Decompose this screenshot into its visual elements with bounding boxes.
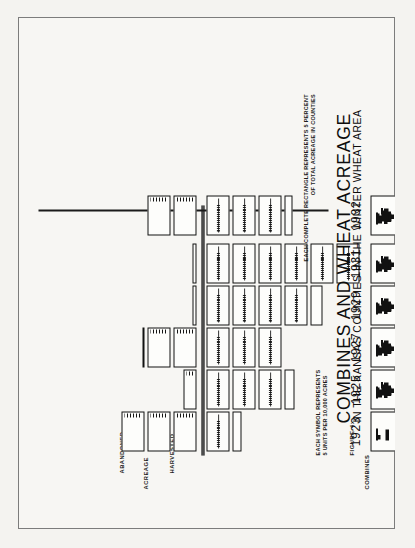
abandoned-rectangle xyxy=(147,195,170,235)
harvested-rectangle xyxy=(232,411,241,451)
harvested-rectangle xyxy=(258,243,281,283)
axis-label-combines: COMBINES xyxy=(363,454,369,489)
legend-combines: EACH SYMBOL REPRESENTS 5 UNITS PER 10,00… xyxy=(314,369,329,455)
harvested-rectangle xyxy=(206,285,229,325)
harvested-rectangle xyxy=(232,327,255,367)
figure-subtitle: IN THE KANSAS COUNTIES IN THE WINTER WHE… xyxy=(351,109,362,422)
abandoned-rectangle xyxy=(173,327,196,367)
abandoned-rectangle xyxy=(147,411,170,451)
harvested-rectangle xyxy=(258,285,281,325)
combines-bar-1929 xyxy=(370,285,395,325)
harvested-rectangle xyxy=(232,285,255,325)
harvested-rectangle xyxy=(232,243,255,283)
figure-canvas: ACREAGE HARVESTED ABANDONED COMBINES xyxy=(18,17,395,529)
combine-symbol-icon xyxy=(374,336,395,358)
harvested-rectangle xyxy=(232,195,255,235)
abandoned-rectangle xyxy=(192,243,196,283)
abandoned-rectangle xyxy=(173,411,196,451)
harvested-rectangle xyxy=(258,327,281,367)
legend-acreage-line1: EACH COMPLETE RECTANGLE REPRESENTS 5 PER… xyxy=(302,93,308,261)
harvested-rectangle xyxy=(206,195,229,235)
harvested-rectangle xyxy=(206,411,229,451)
combines-bar-1932 xyxy=(370,195,395,235)
combine-symbol-icon xyxy=(374,378,395,400)
legend-acreage: EACH COMPLETE RECTANGLE REPRESENTS 5 PER… xyxy=(302,93,317,261)
harvested-rectangle xyxy=(206,369,229,409)
harvested-rectangle xyxy=(284,369,294,409)
abandoned-rectangle xyxy=(173,195,196,235)
combines-bar-1925 xyxy=(370,369,395,409)
harvested-rectangle xyxy=(206,327,229,367)
combines-bar-1927 xyxy=(370,327,395,367)
harvested-rectangle xyxy=(232,369,255,409)
combines-bar-1923 xyxy=(370,411,395,451)
harvested-rectangle xyxy=(258,195,281,235)
combine-symbol-icon xyxy=(374,204,395,226)
legend-acreage-line2: OF TOTAL ACREAGE IN COUNTIES xyxy=(309,93,316,261)
abandoned-partial-line xyxy=(142,327,144,367)
harvested-rectangle xyxy=(284,195,292,235)
combines-bar-1931 xyxy=(370,243,395,283)
legend-combines-line2: 5 UNITS PER 10,000 ACRES xyxy=(321,375,327,455)
axis-label-acreage: ACREAGE xyxy=(142,457,148,489)
legend-combines-line1: EACH SYMBOL REPRESENTS xyxy=(314,369,320,455)
abandoned-rectangle xyxy=(192,285,196,325)
harvested-rectangle xyxy=(284,285,307,325)
harvested-rectangle xyxy=(206,243,229,283)
abandoned-rectangle xyxy=(183,369,196,409)
abandoned-rectangle xyxy=(121,411,144,451)
acreage-baseline xyxy=(201,205,204,455)
combine-symbol-partial-icon xyxy=(374,420,395,442)
harvested-rectangle xyxy=(258,369,281,409)
harvested-rectangle xyxy=(310,285,322,325)
combine-symbol-icon xyxy=(374,294,395,316)
rotated-figure-viewport: ACREAGE HARVESTED ABANDONED COMBINES xyxy=(18,17,395,529)
abandoned-rectangle xyxy=(147,327,170,367)
combine-symbol-icon xyxy=(374,252,395,274)
figure-number: FIGURE 4: xyxy=(348,421,354,455)
scanned-page: ACREAGE HARVESTED ABANDONED COMBINES xyxy=(0,0,415,548)
